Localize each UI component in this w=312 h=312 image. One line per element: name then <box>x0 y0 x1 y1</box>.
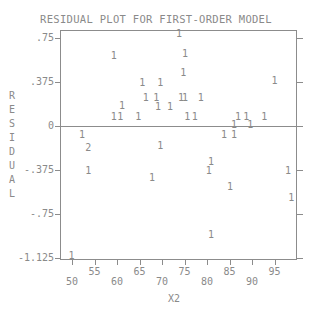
y-tick-left <box>55 126 61 127</box>
y-tick-left <box>55 170 61 171</box>
x-tick-label: 50 <box>60 276 84 287</box>
data-point: 1 <box>271 76 279 86</box>
y-tick-right <box>297 82 303 83</box>
y-tick-left <box>55 214 61 215</box>
x-tick-label: 85 <box>218 266 242 277</box>
data-point: 1 <box>84 166 92 176</box>
data-point: 1 <box>138 78 146 88</box>
data-point: 1 <box>154 102 162 112</box>
data-point: 1 <box>110 51 118 61</box>
x-tick-label: 65 <box>128 266 152 277</box>
data-point: 1 <box>78 130 86 140</box>
data-point: 1 <box>207 230 215 240</box>
data-point: 1 <box>142 93 150 103</box>
data-point: 1 <box>156 141 164 151</box>
x-tick-label: 90 <box>240 276 264 287</box>
data-point: 1 <box>181 93 189 103</box>
data-point: 1 <box>191 112 199 122</box>
data-point: 1 <box>181 49 189 59</box>
y-tick-label: .375 <box>2 76 54 87</box>
x-tick <box>230 260 231 265</box>
y-tick-label: .75 <box>2 32 54 43</box>
data-point: 1 <box>230 120 238 130</box>
data-point: 1 <box>175 29 183 39</box>
y-axis-title-letter: L <box>7 188 17 199</box>
x-tick <box>252 260 253 265</box>
y-tick-right <box>297 214 303 215</box>
x-tick <box>95 260 96 265</box>
y-tick-right <box>297 38 303 39</box>
data-point: 1 <box>287 193 295 203</box>
data-point: 1 <box>197 93 205 103</box>
data-point: 1 <box>230 130 238 140</box>
data-point: 1 <box>205 166 213 176</box>
y-axis-title-letter: R <box>7 90 17 101</box>
x-tick <box>162 260 163 265</box>
y-axis-title-letter: U <box>7 160 17 171</box>
y-tick-right <box>297 258 303 259</box>
chart-title: RESIDUAL PLOT FOR FIRST-ORDER MODEL <box>0 13 312 25</box>
data-point: 2 <box>84 143 92 153</box>
data-point: 1 <box>156 78 164 88</box>
y-axis-title-letter: D <box>7 146 17 157</box>
y-tick-left <box>55 38 61 39</box>
y-tick-right <box>297 170 303 171</box>
data-point: 1 <box>179 68 187 78</box>
x-tick-label: 80 <box>195 276 219 287</box>
data-point: 1 <box>118 101 126 111</box>
x-tick <box>207 260 208 265</box>
y-tick-right <box>297 126 303 127</box>
y-tick-left <box>55 82 61 83</box>
y-axis-title-letter: I <box>7 132 17 143</box>
x-tick-label: 60 <box>105 276 129 287</box>
y-tick-label: -1.125 <box>2 252 54 263</box>
x-tick-label: 55 <box>83 266 107 277</box>
x-tick-label: 70 <box>150 276 174 287</box>
y-tick-left <box>55 258 61 259</box>
plot-frame <box>60 30 297 260</box>
x-tick <box>185 260 186 265</box>
data-point: 1 <box>68 251 76 261</box>
data-point: 1 <box>134 112 142 122</box>
x-tick <box>275 260 276 265</box>
data-point: 1 <box>116 112 124 122</box>
y-tick-label: -.75 <box>2 208 54 219</box>
zero-reference-line <box>60 126 297 127</box>
y-axis-title-letter: E <box>7 104 17 115</box>
x-tick-label: 95 <box>263 266 287 277</box>
data-point: 1 <box>166 102 174 112</box>
x-axis-title: X2 <box>168 293 180 304</box>
x-tick-label: 75 <box>173 266 197 277</box>
data-point: 1 <box>220 130 228 140</box>
data-point: 1 <box>260 112 268 122</box>
data-point: 1 <box>284 166 292 176</box>
data-point: 1 <box>148 173 156 183</box>
y-axis-title-letter: A <box>7 174 17 185</box>
y-axis-title-letter: S <box>7 118 17 129</box>
data-point: 1 <box>246 120 254 130</box>
x-tick <box>140 260 141 265</box>
x-tick <box>117 260 118 265</box>
data-point: 1 <box>226 182 234 192</box>
